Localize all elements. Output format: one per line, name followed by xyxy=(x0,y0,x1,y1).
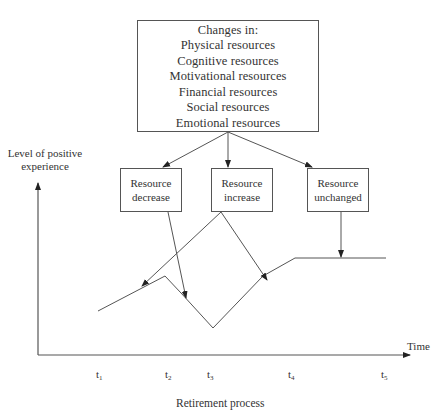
y-axis-label: Level of positive experience xyxy=(2,147,88,173)
decrease-line1: Resource xyxy=(131,176,172,190)
resource-increase-box: Resource increase xyxy=(211,168,273,212)
tick-t4: t4 xyxy=(288,368,295,382)
x-axis-caption: Retirement process xyxy=(176,397,264,410)
resource-decrease-box: Resource decrease xyxy=(120,168,182,212)
arrow-to-decrease xyxy=(163,132,228,167)
resource-physical: Physical resources xyxy=(181,38,275,54)
experience-trajectory xyxy=(98,258,386,328)
resource-emotional: Emotional resources xyxy=(176,116,280,132)
resource-cognitive: Cognitive resources xyxy=(177,54,279,70)
tick-t5: t5 xyxy=(381,368,388,382)
increase-line1: Resource xyxy=(222,176,263,190)
unchanged-line2: unchanged xyxy=(314,190,362,204)
resource-motivational: Motivational resources xyxy=(169,69,286,85)
changes-title: Changes in: xyxy=(198,23,258,39)
tick-t1: t1 xyxy=(96,368,103,382)
unchanged-line1: Resource xyxy=(318,176,359,190)
decrease-line2: decrease xyxy=(132,190,170,204)
arrow-increase-to-line-right xyxy=(221,212,267,280)
resource-social: Social resources xyxy=(186,100,269,116)
y-label-line1: Level of positive xyxy=(2,147,88,160)
changes-box: Changes in: Physical resources Cognitive… xyxy=(137,20,319,132)
tick-t3: t3 xyxy=(207,368,214,382)
resource-financial: Financial resources xyxy=(179,85,278,101)
y-label-line2: experience xyxy=(2,160,88,173)
resource-unchanged-box: Resource unchanged xyxy=(307,168,369,212)
arrow-to-unchanged xyxy=(228,132,312,167)
x-axis-label: Time xyxy=(407,340,430,353)
tick-t2: t2 xyxy=(165,368,172,382)
arrow-decrease-to-line xyxy=(168,212,186,298)
increase-line2: increase xyxy=(224,190,260,204)
